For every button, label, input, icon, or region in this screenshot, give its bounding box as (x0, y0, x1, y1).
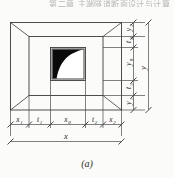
horizontal-dimension-chain (8, 81, 125, 137)
dim-label-y0: y (124, 62, 133, 67)
figure-page: 第二章 主端隧道断面设计与计算 (0, 0, 174, 178)
vertical-segment-labels: y 2 t 4 y 0 t 3 y 1 (124, 24, 134, 106)
dim-label-y2: y (124, 27, 133, 32)
dim-sub-t1: 1 (40, 120, 43, 125)
dim-label-y1: y (124, 101, 133, 106)
dim-label-y-overall: y (138, 66, 148, 71)
dim-sub-y1: 1 (129, 98, 134, 101)
shaded-opening (52, 49, 84, 79)
dim-sub-x1: 1 (20, 120, 23, 125)
dim-label-x-overall: x (63, 131, 68, 141)
figure-caption: (a) (0, 158, 174, 169)
figure-svg: y 2 t 4 y 0 t 3 y 1 (0, 0, 174, 178)
technical-figure: y 2 t 4 y 0 t 3 y 1 (0, 0, 174, 178)
